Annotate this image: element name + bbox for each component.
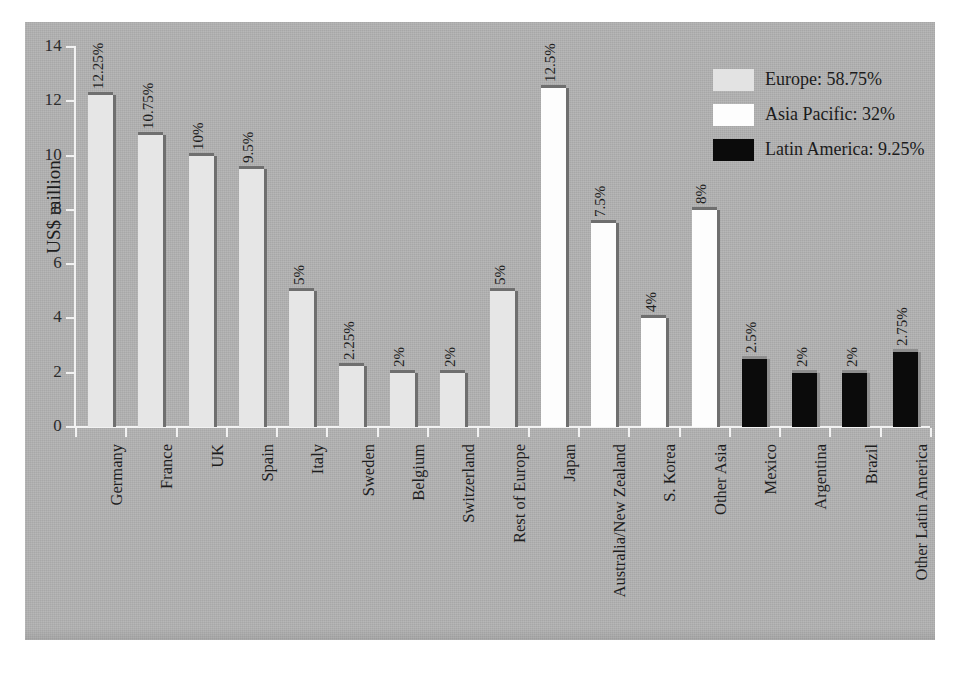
- bar-edge-top: [490, 288, 515, 291]
- y-tick-label: 0: [22, 416, 62, 436]
- bar-edge-top: [692, 207, 717, 210]
- category-label: S. Korea: [660, 444, 680, 502]
- category-label: Other Asia: [711, 444, 731, 515]
- bar[interactable]: 2%: [390, 373, 415, 427]
- legend-swatch: [713, 69, 754, 91]
- y-tick-mark: [66, 209, 75, 211]
- bar-edge-top: [842, 370, 867, 373]
- category-label: Rest of Europe: [510, 444, 530, 543]
- legend-item[interactable]: Latin America: 9.25%: [713, 132, 943, 167]
- bar-value-label: 10%: [190, 122, 207, 150]
- bar-slot: 12.25%: [75, 47, 128, 427]
- bar-edge-top: [138, 132, 163, 135]
- bar-edge-right: [415, 373, 418, 427]
- bar-edge-right: [867, 373, 870, 427]
- bar-edge-right: [616, 223, 619, 427]
- category-label: Australia/New Zealand: [610, 444, 630, 597]
- bar[interactable]: 2.5%: [742, 359, 767, 427]
- y-tick-label: 10: [22, 145, 62, 165]
- x-tick-mark: [75, 428, 77, 437]
- bar[interactable]: 2%: [440, 373, 465, 427]
- bar-value-label: 2.25%: [341, 321, 358, 360]
- x-tick-mark: [326, 428, 328, 437]
- bar-slot: 10%: [176, 47, 229, 427]
- y-tick-label: 12: [22, 90, 62, 110]
- x-tick-mark: [930, 428, 932, 437]
- x-tick-mark: [176, 428, 178, 437]
- category-label: Other Latin America: [912, 444, 932, 581]
- bar-value-label: 2.5%: [743, 322, 760, 353]
- y-tick-label: 6: [22, 253, 62, 273]
- bar-value-label: 2%: [442, 347, 459, 367]
- y-tick-mark: [66, 155, 75, 157]
- bar-slot: 2%: [427, 47, 480, 427]
- bar[interactable]: 2.25%: [339, 366, 364, 427]
- bar[interactable]: 10%: [189, 156, 214, 427]
- bar[interactable]: 5%: [490, 291, 515, 427]
- bar-value-label: 12.5%: [542, 43, 559, 82]
- category-label: Germany: [107, 444, 127, 505]
- bar[interactable]: 12.25%: [88, 95, 113, 428]
- bar-edge-right: [566, 88, 569, 427]
- bar-value-label: 5%: [492, 265, 509, 285]
- bar[interactable]: 9.5%: [239, 169, 264, 427]
- x-tick-mark: [477, 428, 479, 437]
- bar-edge-top: [390, 370, 415, 373]
- x-tick-mark: [427, 428, 429, 437]
- bar-edge-top: [189, 153, 214, 156]
- category-label: Japan: [560, 444, 580, 482]
- x-tick-mark: [729, 428, 731, 437]
- x-tick-mark: [226, 428, 228, 437]
- bar-value-label: 5%: [291, 265, 308, 285]
- bar-value-label: 2%: [844, 347, 861, 367]
- bar-edge-right: [717, 210, 720, 427]
- category-label: UK: [208, 444, 228, 468]
- legend-swatch: [713, 104, 754, 126]
- x-tick-mark: [377, 428, 379, 437]
- bar-edge-top: [88, 92, 113, 95]
- legend-item[interactable]: Asia Pacific: 32%: [713, 97, 943, 132]
- bar[interactable]: 12.5%: [541, 88, 566, 427]
- bar[interactable]: 10.75%: [138, 135, 163, 427]
- y-tick-label: 14: [22, 36, 62, 56]
- bar-edge-right: [214, 156, 217, 427]
- bar[interactable]: 5%: [289, 291, 314, 427]
- bar-slot: 10.75%: [125, 47, 178, 427]
- bar-value-label: 2.75%: [894, 308, 911, 347]
- legend-item[interactable]: Europe: 58.75%: [713, 62, 943, 97]
- y-tick-mark: [66, 100, 75, 102]
- bar[interactable]: 2.75%: [893, 352, 918, 427]
- bar-slot: 12.5%: [528, 47, 581, 427]
- legend-swatch: [713, 139, 754, 161]
- y-tick-label: 2: [22, 362, 62, 382]
- bar-slot: 9.5%: [226, 47, 279, 427]
- category-label: Sweden: [359, 444, 379, 496]
- x-tick-mark: [125, 428, 127, 437]
- bar-edge-right: [918, 352, 921, 427]
- category-label: Mexico: [761, 444, 781, 494]
- bar[interactable]: 4%: [641, 318, 666, 427]
- x-tick-mark: [276, 428, 278, 437]
- legend-label: Europe: 58.75%: [765, 69, 882, 90]
- category-label: Italy: [308, 444, 328, 474]
- y-tick-mark: [66, 426, 75, 428]
- bar-slot: 5%: [477, 47, 530, 427]
- bar[interactable]: 2%: [842, 373, 867, 427]
- bar-edge-right: [515, 291, 518, 427]
- bar-edge-top: [541, 85, 566, 88]
- bar[interactable]: 7.5%: [591, 223, 616, 427]
- bar-slot: 4%: [628, 47, 681, 427]
- bar-value-label: 9.5%: [240, 132, 257, 163]
- bar-value-label: 2%: [391, 347, 408, 367]
- bar-edge-top: [591, 220, 616, 223]
- bar-value-label: 12.25%: [90, 42, 107, 88]
- y-tick-mark: [66, 372, 75, 374]
- x-tick-mark: [880, 428, 882, 437]
- category-label: Argentina: [811, 444, 831, 510]
- bar-value-label: 10.75%: [140, 83, 157, 129]
- x-tick-mark: [528, 428, 530, 437]
- bar-value-label: 7.5%: [592, 186, 609, 217]
- bar[interactable]: 8%: [692, 210, 717, 427]
- bar[interactable]: 2%: [792, 373, 817, 427]
- category-label: Spain: [258, 444, 278, 482]
